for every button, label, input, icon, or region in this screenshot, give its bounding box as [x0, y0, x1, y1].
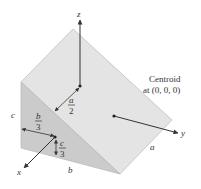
b-third-denominator: 3 [36, 122, 41, 132]
y-axis-label: y [180, 128, 185, 138]
b-third-numerator: b [36, 111, 41, 121]
c-third-denominator: 3 [60, 149, 65, 159]
c-third-numerator: c [60, 138, 64, 148]
z-dot [78, 84, 81, 87]
dimension-a-label: a [150, 142, 155, 152]
side-centroid-dot [53, 135, 56, 138]
dimension-c-label: c [11, 110, 15, 120]
dimension-b-label: b [68, 165, 73, 175]
a-half-numerator: a [69, 95, 74, 105]
z-axis-label: z [76, 9, 81, 19]
x-axis-label: x [16, 167, 21, 177]
wedge-centroid-diagram: z a 2 y Centroid at (0, 0, 0) b 3 c 3 x … [0, 0, 201, 189]
a-half-denominator: 2 [69, 106, 74, 116]
centroid-dot [112, 114, 115, 117]
diagram-canvas: z a 2 y Centroid at (0, 0, 0) b 3 c 3 x … [0, 0, 201, 189]
centroid-title: Centroid [149, 74, 181, 84]
centroid-subtitle: at (0, 0, 0) [143, 85, 180, 95]
